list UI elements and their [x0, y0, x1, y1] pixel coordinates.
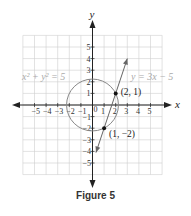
svg-text:−5: −5 [32, 107, 41, 116]
svg-text:−3: −3 [55, 107, 64, 116]
svg-text:−4: −4 [83, 147, 92, 156]
svg-text:(2, 1): (2, 1) [121, 87, 142, 98]
svg-text:5: 5 [87, 43, 91, 52]
svg-text:−2: −2 [83, 124, 92, 133]
svg-text:(1, −2): (1, −2) [109, 129, 135, 140]
svg-text:4: 4 [87, 55, 91, 64]
svg-text:0: 0 [94, 105, 98, 114]
graph: xy−5−4−3−2−112345−5−4−3−2−1123450 (2, 1)… [0, 0, 191, 216]
svg-text:4: 4 [136, 107, 140, 116]
svg-text:y = 3x − 5: y = 3x − 5 [130, 71, 173, 82]
annotations: x² + y² = 5y = 3x − 5 [21, 71, 173, 82]
svg-text:3: 3 [124, 107, 128, 116]
figure-caption: Figure 5 [0, 190, 191, 201]
svg-text:−4: −4 [43, 107, 52, 116]
svg-text:1: 1 [87, 89, 91, 98]
svg-text:5: 5 [148, 107, 152, 116]
svg-text:−1: −1 [83, 113, 92, 122]
svg-text:y: y [89, 8, 95, 20]
tick-labels: xy−5−4−3−2−112345−5−4−3−2−1123450 [32, 8, 181, 168]
svg-text:1: 1 [101, 107, 105, 116]
svg-text:−3: −3 [83, 136, 92, 145]
svg-text:−5: −5 [83, 159, 92, 168]
svg-text:x: x [174, 98, 180, 110]
svg-text:3: 3 [87, 66, 91, 75]
svg-text:x² + y² = 5: x² + y² = 5 [21, 71, 65, 82]
